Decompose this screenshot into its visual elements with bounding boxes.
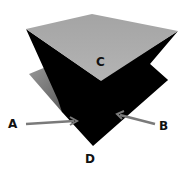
label-b: B [159,119,168,133]
folded-shape-diagram: C A B D [0,0,189,175]
label-d: D [85,152,95,166]
label-a: A [8,117,18,131]
label-c: C [96,55,105,69]
